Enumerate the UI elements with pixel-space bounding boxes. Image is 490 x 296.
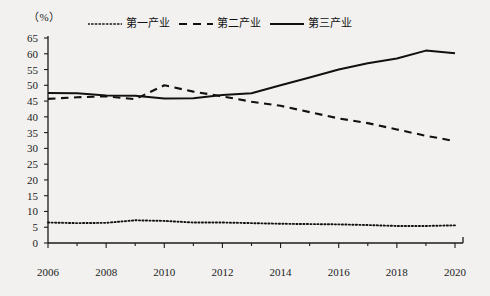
y-axis-tick-label: 15 — [14, 190, 38, 202]
y-axis-tick-label: 25 — [14, 158, 38, 170]
x-axis-tick-label: 2020 — [435, 266, 475, 278]
x-axis-tick-label: 2018 — [377, 266, 417, 278]
series-line-primary-industry — [48, 220, 455, 226]
x-axis-tick-label: 2012 — [202, 266, 242, 278]
x-axis-tick-label: 2010 — [144, 266, 184, 278]
chart-plot-area — [0, 0, 490, 296]
x-axis-tick-label: 2008 — [86, 266, 126, 278]
chart-container: （%） 第一产业 第二产业 第三产业 051015202530354045505… — [0, 0, 490, 296]
y-axis-tick-label: 35 — [14, 127, 38, 139]
y-axis-tick-label: 55 — [14, 64, 38, 76]
y-axis-tick-label: 5 — [14, 221, 38, 233]
y-axis-tick-label: 50 — [14, 79, 38, 91]
x-axis-tick-label: 2014 — [261, 266, 301, 278]
y-axis-tick-label: 20 — [14, 174, 38, 186]
x-axis-tick-label: 2006 — [28, 266, 68, 278]
y-axis-tick-label: 45 — [14, 95, 38, 107]
series-line-tertiary-industry — [48, 51, 455, 99]
y-axis-tick-label: 65 — [14, 32, 38, 44]
y-axis-tick-label: 10 — [14, 205, 38, 217]
x-axis-tick-label: 2016 — [319, 266, 359, 278]
y-axis-tick-label: 40 — [14, 111, 38, 123]
y-axis-tick-label: 60 — [14, 48, 38, 60]
y-axis-tick-label: 30 — [14, 142, 38, 154]
y-axis-tick-label: 0 — [14, 237, 38, 249]
